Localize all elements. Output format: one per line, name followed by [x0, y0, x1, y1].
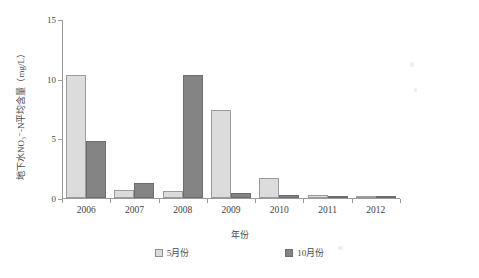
y-tick-mark [58, 20, 63, 21]
y-axis-title: 地下水NO₃⁻-N平均含量（mg/L） [10, 16, 32, 212]
scan-speckle [338, 246, 343, 250]
x-axis-line [62, 198, 400, 199]
legend-item: 10月份 [285, 246, 324, 259]
x-tick-label: 2012 [366, 205, 385, 215]
bar [356, 196, 376, 198]
bar [114, 190, 134, 198]
x-axis-title: 年份 [0, 228, 479, 241]
legend-swatch [285, 249, 293, 257]
x-tick-label: 2010 [270, 205, 289, 215]
legend-label: 10月份 [297, 246, 324, 259]
scan-speckle [410, 62, 414, 67]
bar-group [356, 20, 396, 198]
x-tick-label: 2007 [125, 205, 144, 215]
y-tick-label: 10 [47, 75, 56, 85]
y-axis-title-text: 地下水NO₃⁻-N平均含量（mg/L） [17, 49, 26, 180]
bar-group [114, 20, 154, 198]
x-tick-label: 2006 [77, 205, 96, 215]
bar-group [163, 20, 203, 198]
bar [183, 75, 203, 198]
bar [259, 178, 279, 198]
bar [231, 193, 251, 198]
bar-group [66, 20, 106, 198]
x-tick-mark [110, 199, 111, 203]
x-tick-mark [255, 199, 256, 203]
bar [211, 110, 231, 198]
x-tick-label: 2008 [173, 205, 192, 215]
bar [163, 191, 183, 198]
y-axis-line [62, 20, 63, 199]
bar [328, 196, 348, 198]
x-tick-mark [352, 199, 353, 203]
figure: 地下水NO₃⁻-N平均含量（mg/L） 051015 2006200720082… [0, 0, 479, 278]
x-tick-label: 2011 [318, 205, 337, 215]
x-tick-mark [400, 199, 401, 203]
bar [279, 195, 299, 198]
y-tick-mark [58, 80, 63, 81]
x-tick-mark [303, 199, 304, 203]
bar [134, 183, 154, 199]
scan-speckle [414, 88, 417, 92]
bar [308, 195, 328, 198]
y-tick-label: 15 [47, 15, 56, 25]
y-tick-mark [58, 139, 63, 140]
y-tick-label: 0 [52, 194, 57, 204]
legend-label: 5月份 [167, 246, 190, 259]
legend-item: 5月份 [155, 246, 190, 259]
legend: 5月份10月份 [0, 246, 479, 259]
y-tick-label: 5 [52, 134, 57, 144]
bar [376, 196, 396, 198]
plot-area: 051015 2006200720082009201020112012 [62, 20, 400, 199]
x-tick-mark [207, 199, 208, 203]
bar-group [259, 20, 299, 198]
x-tick-mark [62, 199, 63, 203]
bar-group [211, 20, 251, 198]
legend-swatch [155, 249, 163, 257]
x-tick-label: 2009 [222, 205, 241, 215]
bar [66, 75, 86, 198]
bar [86, 141, 106, 198]
bar-group [308, 20, 348, 198]
x-tick-mark [159, 199, 160, 203]
